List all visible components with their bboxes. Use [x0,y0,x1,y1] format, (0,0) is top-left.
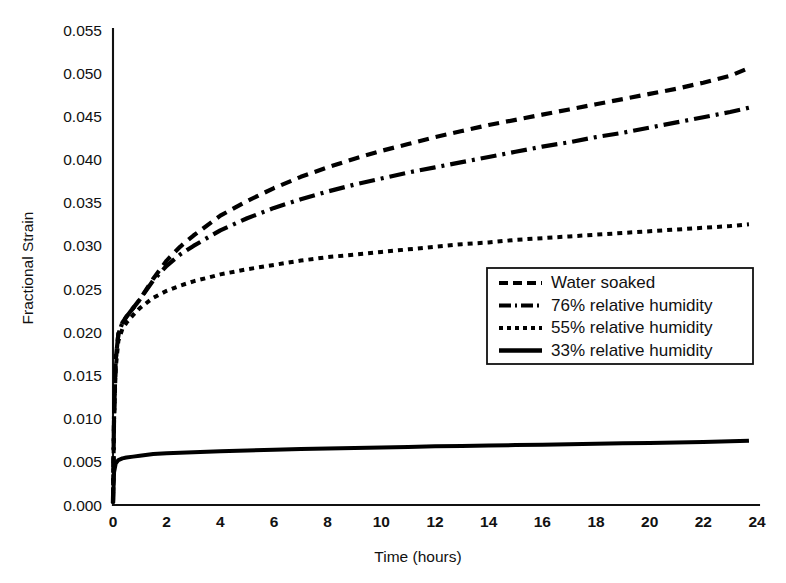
y-tick-label: 0.040 [63,151,102,168]
x-tick-label: 10 [373,513,390,530]
x-tick-label: 8 [323,513,332,530]
x-tick-label: 16 [534,513,552,530]
y-tick-label: 0.025 [63,281,102,298]
fractional-strain-chart: 0.0000.0050.0100.0150.0200.0250.0300.035… [0,0,786,583]
x-tick-label: 22 [695,513,712,530]
y-axis-title: Fractional Strain [19,212,36,325]
x-tick-label: 12 [426,513,443,530]
x-tick-label: 24 [748,513,766,530]
x-axis-title: Time (hours) [374,548,461,565]
chart-legend: Water soaked76% relative humidity55% rel… [487,268,753,364]
y-tick-label: 0.020 [63,324,102,341]
y-tick-label: 0.050 [63,65,102,82]
x-tick-label: 14 [480,513,498,530]
x-tick-label: 6 [270,513,279,530]
x-tick-label: 18 [587,513,605,530]
y-tick-label: 0.005 [63,453,102,470]
y-tick-label: 0.030 [63,237,102,254]
legend-label-2: 55% relative humidity [551,318,713,337]
y-tick-label: 0.000 [63,497,102,514]
x-tick-label: 0 [109,513,118,530]
x-tick-label: 2 [162,513,171,530]
y-tick-label: 0.045 [63,108,102,125]
x-tick-label: 4 [216,513,225,530]
legend-label-1: 76% relative humidity [551,296,713,315]
x-tick-label: 20 [641,513,658,530]
y-tick-label: 0.015 [63,367,102,384]
y-tick-label: 0.035 [63,194,102,211]
y-tick-label: 0.055 [63,22,102,39]
legend-label-3: 33% relative humidity [551,341,713,360]
y-tick-label: 0.010 [63,410,102,427]
legend-label-0: Water soaked [551,273,655,292]
